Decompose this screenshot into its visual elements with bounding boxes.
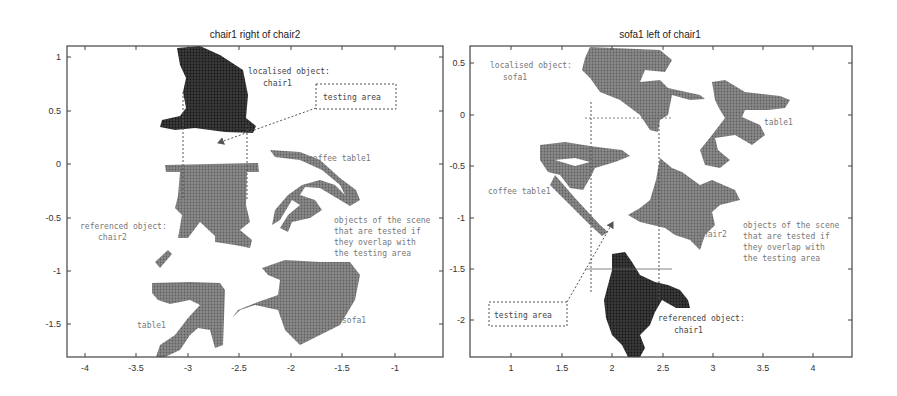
sofa1 <box>232 260 360 345</box>
objects-note-line4: the testing area <box>743 254 820 263</box>
x-tick: 2 <box>609 363 614 373</box>
y-tick: -1.5 <box>45 319 61 329</box>
figure: chair1 right of chair2 testing area loca… <box>0 0 897 396</box>
objects-note-line3: they overlap with <box>743 243 825 252</box>
y-tick: -1.5 <box>449 264 465 274</box>
referenced-object-name: chair2 <box>98 233 127 242</box>
localised-object-chair1 <box>160 46 256 133</box>
referenced-object-name: chair1 <box>674 326 703 335</box>
referenced-object-chair1 <box>604 252 690 357</box>
chair-label: chair2 <box>698 230 727 239</box>
coffee-table-label: coffee table1 <box>308 154 371 163</box>
chair2-leg <box>155 250 172 268</box>
y-tick: 0.5 <box>48 106 61 116</box>
objects-note-line3: they overlap with <box>334 238 416 247</box>
testing-area-arrow <box>567 222 613 302</box>
objects-note-line2: that are tested if <box>743 232 830 241</box>
sofa-label: sofa1 <box>342 316 366 325</box>
objects-note-line1: objects of the scene <box>743 221 840 230</box>
y-tick: -1 <box>457 213 465 223</box>
objects-note-line1: objects of the scene <box>334 216 431 225</box>
coffee-table-label: coffee table1 <box>488 187 551 196</box>
testing-area-label: testing area <box>323 93 381 102</box>
testing-area-label: testing area <box>494 311 552 320</box>
left-panel-title: chair1 right of chair2 <box>210 29 301 40</box>
y-tick: 0 <box>460 110 465 120</box>
y-tick: -0.5 <box>45 213 61 223</box>
right-panel-title: sofa1 left of chair1 <box>619 29 701 40</box>
table-label: table1 <box>137 321 166 330</box>
x-tick: -2.5 <box>231 363 247 373</box>
x-tick: 3 <box>710 363 715 373</box>
y-tick: -0.5 <box>449 161 465 171</box>
table1 <box>152 282 225 357</box>
right-panel: sofa1 left of chair1 testing area locali… <box>449 29 852 373</box>
x-tick: -1.5 <box>334 363 350 373</box>
x-tick: -3 <box>184 363 192 373</box>
y-tick: -2 <box>457 315 465 325</box>
localised-object-name: chair1 <box>263 79 292 88</box>
x-tick: 4 <box>810 363 815 373</box>
y-tick: -1 <box>53 266 61 276</box>
x-tick: 1.5 <box>556 363 569 373</box>
objects-note-line4: the testing area <box>334 249 411 258</box>
x-tick: 2.5 <box>657 363 670 373</box>
x-tick: 3.5 <box>757 363 770 373</box>
localised-object-label: localised object: <box>490 61 572 70</box>
left-plot-frame <box>67 46 443 357</box>
x-tick: 1 <box>508 363 513 373</box>
localised-object-label: localised object: <box>248 67 330 76</box>
y-tick: 0.5 <box>452 58 465 68</box>
referenced-object-label: referenced object: <box>658 314 745 323</box>
x-tick: -4 <box>81 363 89 373</box>
referenced-object-label: referenced object: <box>80 222 167 231</box>
referenced-object-chair2 <box>165 163 259 248</box>
y-tick: 0 <box>56 159 61 169</box>
left-panel: chair1 right of chair2 testing area loca… <box>45 29 443 373</box>
x-tick: -1 <box>391 363 399 373</box>
objects-note-line2: that are tested if <box>334 227 421 236</box>
table-label: table1 <box>764 118 793 127</box>
x-tick: -2 <box>287 363 295 373</box>
localised-object-name: sofa1 <box>503 73 527 82</box>
localised-object-sofa1 <box>582 47 705 132</box>
x-tick: -3.5 <box>128 363 144 373</box>
y-tick: 1 <box>56 52 61 62</box>
